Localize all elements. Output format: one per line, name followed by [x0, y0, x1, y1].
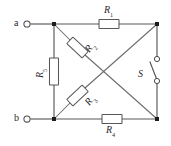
switch-label-s: S: [138, 69, 143, 79]
switch-terminal-lower[interactable]: [154, 78, 159, 83]
resistor-label-r5-subscript: 5: [41, 69, 48, 72]
wire-diagonal-r2-to-br: [85, 55, 156, 118]
resistor-label-r5: R5: [35, 69, 47, 78]
junction-dot-top-left: [52, 22, 56, 26]
resistor-label-r4: R4: [106, 125, 115, 137]
terminal-post-a[interactable]: [24, 21, 30, 27]
junction-dot-bottom-left: [52, 117, 56, 121]
resistor-label-r1-subscript: 1: [110, 11, 113, 18]
terminal-label-a: a: [14, 18, 18, 28]
junction-dot-bottom-right: [155, 117, 159, 121]
resistor-label-r1: R1: [104, 5, 113, 17]
terminal-label-b: b: [14, 113, 19, 123]
wire-diagonal-tl-to-r2: [55, 25, 70, 40]
wire-diagonal-r3-to-tr: [85, 25, 156, 88]
junction-dot-top-right: [155, 22, 159, 26]
resistor-r1-body: [99, 20, 119, 29]
wire-diagonal-bl-to-r3: [55, 103, 70, 118]
switch-blade[interactable]: [150, 62, 156, 78]
switch-terminal-upper[interactable]: [154, 56, 159, 61]
resistor-label-r4-subscript: 4: [112, 131, 115, 138]
schematic-svg: [0, 0, 171, 146]
resistor-label-r5-letter: R: [34, 72, 45, 78]
terminal-post-b[interactable]: [24, 116, 30, 122]
resistor-r4-body: [102, 115, 122, 124]
circuit-diagram-canvas: a b R1 R2 R3 R4 R5 S: [0, 0, 171, 146]
resistor-r5-body: [50, 58, 59, 85]
